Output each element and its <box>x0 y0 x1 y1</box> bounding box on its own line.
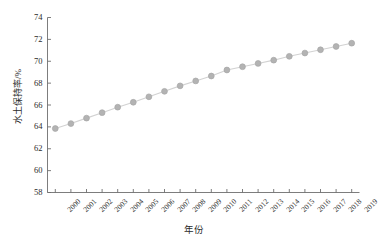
data-point <box>99 110 105 116</box>
data-point <box>224 67 230 73</box>
data-point <box>193 78 199 84</box>
y-tick-label: 62 <box>21 143 43 153</box>
y-tick-label: 66 <box>21 100 43 110</box>
y-tick-label: 72 <box>21 34 43 44</box>
data-point <box>333 44 339 50</box>
data-point <box>271 57 277 63</box>
data-point <box>162 88 168 94</box>
data-point <box>84 115 90 121</box>
y-tick-label: 64 <box>21 121 43 131</box>
data-point <box>255 61 261 67</box>
data-point <box>302 50 308 56</box>
data-point <box>146 94 152 100</box>
y-tick-label: 60 <box>21 165 43 175</box>
data-point <box>177 83 183 89</box>
data-point <box>52 126 58 132</box>
data-point <box>68 121 74 127</box>
data-point <box>318 47 324 53</box>
data-point <box>130 99 136 105</box>
y-tick-label: 70 <box>21 56 43 66</box>
data-point <box>208 73 214 79</box>
y-tick-label: 58 <box>21 187 43 197</box>
x-axis-title: 年份 <box>0 222 370 236</box>
x-axis-title-text: 年份 <box>184 225 204 235</box>
y-tick-label: 68 <box>21 78 43 88</box>
data-point <box>115 104 121 110</box>
data-point <box>286 53 292 59</box>
data-point <box>349 40 355 46</box>
y-tick-label: 74 <box>21 12 43 22</box>
data-point <box>240 64 246 70</box>
